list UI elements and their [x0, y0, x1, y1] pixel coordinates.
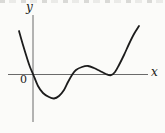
- y-axis-label: y: [26, 1, 33, 13]
- origin-label: 0: [20, 74, 27, 86]
- plot-canvas: [0, 0, 165, 133]
- x-axis-label: x: [151, 66, 158, 78]
- function-curve: [19, 26, 139, 99]
- function-graph-figure: y x 0: [0, 0, 165, 133]
